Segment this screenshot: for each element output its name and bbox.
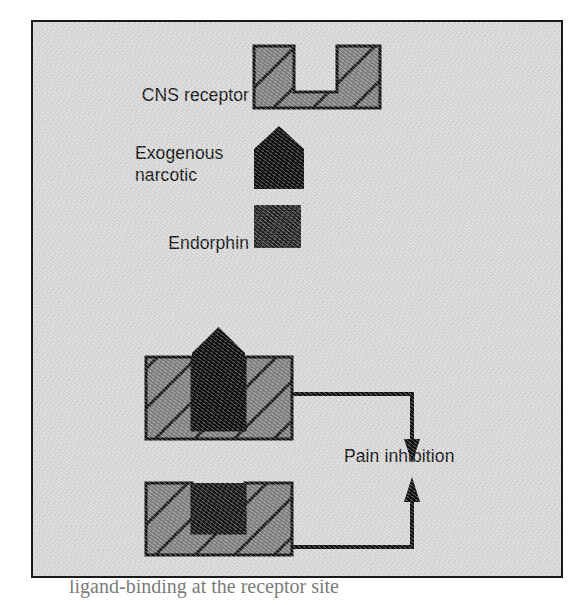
caption-text: ligand-binding at the receptor site [69,580,339,598]
figure-page: CNS receptor Exogenous nar [0,0,582,605]
legend-label-cns-receptor: CNS receptor [33,84,249,106]
caption-clipped-strip: ligand-binding at the receptor site [31,580,563,605]
arrow-endorphin-to-pain-inhibition [289,474,429,554]
endorphin-bound-receptor-complex [146,483,292,555]
cns-receptor-legend-shape [254,46,380,108]
legend-label-endorphin: Endorphin [33,232,249,254]
pain-inhibition-label: Pain inhibition [344,445,544,467]
endorphin-legend-shape [254,205,301,248]
figure-frame: CNS receptor Exogenous nar [31,20,563,578]
narcotic-bound-receptor-complex [146,327,292,439]
exogenous-narcotic-legend-shape [254,126,304,189]
